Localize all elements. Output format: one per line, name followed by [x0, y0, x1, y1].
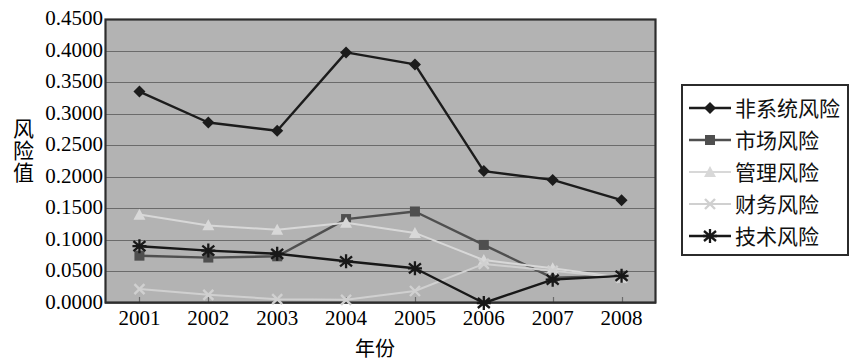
legend-item-2[interactable]: 市场风险 [687, 124, 819, 156]
legend-item-label: 管理风险 [735, 162, 819, 183]
square-marker [687, 127, 733, 153]
star-marker [687, 223, 733, 249]
x-tick-label: 2008 [582, 306, 662, 331]
legend-item-1[interactable]: 非系统风险 [687, 92, 840, 124]
square-marker [705, 135, 715, 145]
legend-item-4[interactable]: 财务风险 [687, 188, 819, 220]
diamond-marker [687, 95, 733, 121]
star-marker [703, 229, 717, 243]
legend-item-label: 市场风险 [735, 130, 819, 151]
legend-item-label: 财务风险 [735, 194, 819, 215]
legend-item-5[interactable]: 技术风险 [687, 220, 819, 252]
legend: 非系统风险市场风险管理风险财务风险技术风险 [681, 84, 849, 256]
triangle-marker [687, 159, 733, 185]
x-marker [687, 191, 733, 217]
x-axis-title: 年份 [290, 333, 460, 362]
risk-line-chart: 风险值 0.45000.40000.35000.30000.25000.2000… [0, 0, 851, 362]
legend-item-label: 非系统风险 [735, 98, 840, 119]
legend-item-label: 技术风险 [735, 226, 819, 247]
diamond-marker [704, 102, 716, 114]
legend-item-3[interactable]: 管理风险 [687, 156, 819, 188]
